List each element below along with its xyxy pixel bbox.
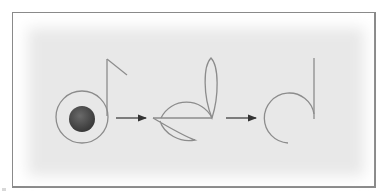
diagram-canvas	[0, 0, 391, 195]
corner-mark	[2, 188, 6, 191]
note-head	[69, 106, 95, 132]
